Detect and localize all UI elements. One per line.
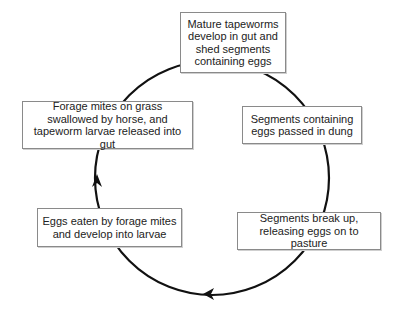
stage-segments-passed: Segments containing eggs passed in dung [242, 106, 362, 144]
stage-segments-break-up: Segments break up, releasing eggs on to … [237, 212, 381, 250]
stage-mites-swallowed: Forage mites on grass swallowed by horse… [22, 101, 193, 149]
stage-eggs-eaten: Eggs eaten by forage mites and develop i… [37, 208, 182, 247]
stage-text: Eggs eaten by forage mites and develop i… [42, 215, 177, 240]
arrow-up-left [92, 174, 102, 187]
stage-text: Segments break up, releasing eggs on to … [242, 212, 376, 250]
stage-text: Forage mites on grass swallowed by horse… [27, 100, 188, 150]
stage-text: Mature tapeworms develop in gut and shed… [185, 18, 281, 68]
stage-text: Segments containing eggs passed in dung [247, 113, 357, 138]
stage-mature-tapeworms: Mature tapeworms develop in gut and shed… [180, 12, 286, 73]
